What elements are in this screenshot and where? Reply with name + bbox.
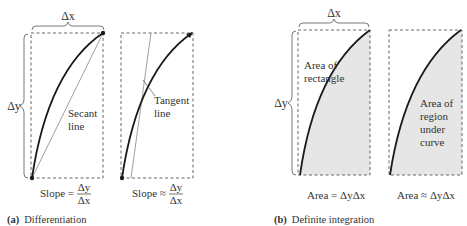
delta-y-brace-b	[288, 31, 296, 175]
region-label-line1: Area of	[420, 97, 454, 109]
region-label-line2: region	[420, 110, 449, 122]
svg-text:Slope ≈: Slope ≈	[132, 187, 166, 199]
delta-y-brace	[20, 34, 28, 178]
svg-text:Δx: Δx	[78, 194, 91, 206]
svg-text:Slope =: Slope =	[40, 187, 74, 199]
rect-label-line2: rectangle	[304, 72, 344, 84]
delta-x-brace-b	[299, 19, 369, 27]
panel-integration: Δx Δy Area of rectangle Area of region u…	[274, 6, 462, 226]
tangent-label-line2: line	[154, 107, 171, 119]
svg-text:Δy: Δy	[78, 181, 91, 193]
svg-text:Δy: Δy	[170, 181, 183, 193]
region-label-line3: under	[420, 123, 445, 135]
slope-formula-approx: Slope ≈ Δy Δx	[132, 181, 183, 206]
secant-label-line1: Secant	[68, 107, 97, 119]
rect-label-line1: Area of	[304, 59, 338, 71]
tangent-line	[131, 33, 151, 178]
end-point	[101, 31, 105, 35]
tangent-label-line1: Tangent	[154, 94, 189, 106]
calculus-diagram: Δx Δy Secant line Tangent line Slope = Δ…	[0, 0, 467, 226]
caption-b: (b)Definite integration	[274, 214, 375, 226]
start-point-2	[120, 176, 124, 180]
secant-line	[32, 33, 103, 178]
delta-x-brace	[32, 22, 104, 30]
delta-x-label-b: Δx	[327, 6, 341, 20]
shaded-area-rect	[300, 30, 370, 175]
start-point	[30, 176, 34, 180]
delta-x-label: Δx	[61, 9, 75, 23]
caption-a: (a)Differentiation	[7, 214, 87, 226]
area-formula-approx: Area ≈ ΔyΔx	[397, 189, 456, 201]
panel-differentiation: Δx Δy Secant line Tangent line Slope = Δ…	[7, 9, 193, 226]
delta-y-label: Δy	[7, 99, 21, 113]
secant-label-line2: line	[68, 120, 85, 132]
region-label-line4: curve	[420, 136, 445, 148]
delta-y-label-b: Δy	[274, 96, 288, 110]
slope-formula-exact: Slope = Δy Δx	[40, 181, 91, 206]
area-formula-exact: Area = ΔyΔx	[307, 189, 366, 201]
svg-text:Δx: Δx	[170, 194, 183, 206]
